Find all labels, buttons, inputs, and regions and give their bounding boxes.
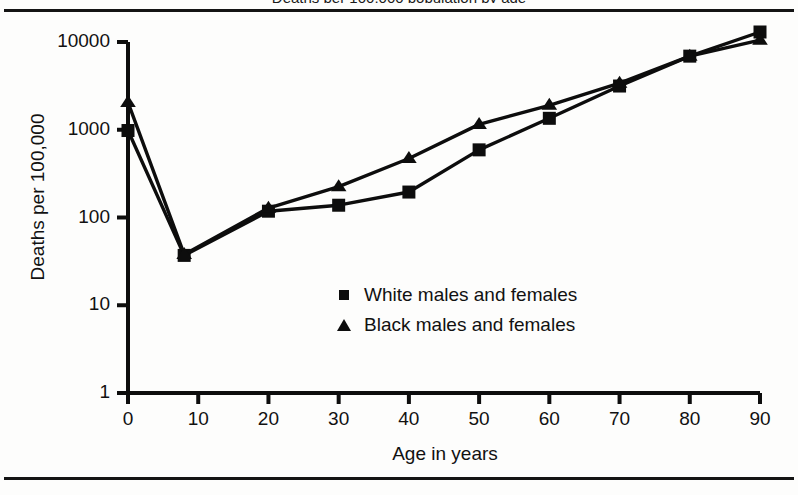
series-triangle (120, 33, 768, 259)
figure-root: Deaths per 100,000 population by age Dea… (0, 0, 798, 495)
x-tick-label: 30 (299, 408, 379, 430)
x-tick-label: 90 (720, 408, 798, 430)
x-tick-label: 40 (369, 408, 449, 430)
series-layer (120, 26, 768, 262)
y-tick-label: 1 (0, 381, 110, 403)
y-tick-label: 1000 (0, 118, 110, 140)
square-marker-icon (333, 290, 355, 300)
legend-item-black: Black males and females (333, 310, 577, 340)
legend-label-white: White males and females (364, 284, 577, 306)
y-tick-label: 100 (0, 206, 110, 228)
x-tick-label: 10 (158, 408, 238, 430)
axes-layer (117, 42, 760, 404)
triangle-marker-icon (333, 319, 355, 331)
series-square (122, 26, 767, 262)
legend-item-white: White males and females (333, 280, 577, 310)
x-tick-label: 70 (580, 408, 660, 430)
y-tick-label: 10000 (0, 30, 110, 52)
chart-legend: White males and females Black males and … (333, 280, 577, 340)
x-tick-label: 0 (88, 408, 168, 430)
x-tick-label: 80 (650, 408, 730, 430)
y-tick-label: 10 (0, 293, 110, 315)
x-tick-label: 60 (509, 408, 589, 430)
x-tick-label: 50 (439, 408, 519, 430)
x-tick-label: 20 (228, 408, 308, 430)
legend-label-black: Black males and females (364, 314, 575, 336)
